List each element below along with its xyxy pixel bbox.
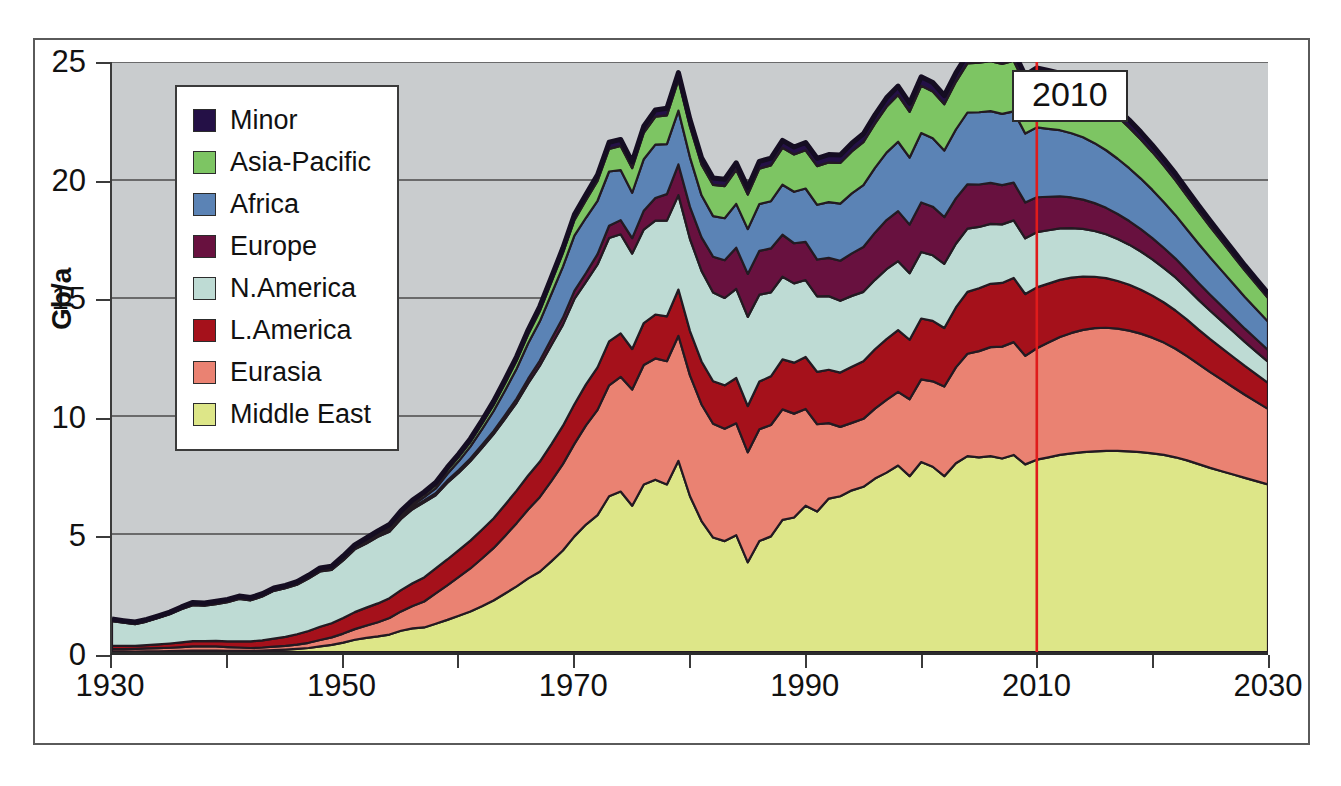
y-tick-mark — [96, 536, 110, 538]
x-tick-mark — [573, 655, 575, 668]
legend-item-l-america[interactable]: L.America — [193, 309, 371, 351]
x-tick-mark — [226, 655, 228, 668]
legend-item-eurasia[interactable]: Eurasia — [193, 351, 371, 393]
legend-item-n-america[interactable]: N.America — [193, 267, 371, 309]
legend-item-middle-east[interactable]: Middle East — [193, 393, 371, 435]
y-tick-label: 10 — [52, 400, 86, 436]
x-tick-mark — [1036, 655, 1038, 668]
legend-label: Minor — [230, 107, 298, 134]
x-tick-mark — [805, 655, 807, 668]
legend-swatch-icon — [193, 235, 216, 258]
legend-swatch-icon — [193, 151, 216, 174]
legend-label: Middle East — [230, 401, 371, 428]
legend-swatch-icon — [193, 277, 216, 300]
x-tick-mark — [689, 655, 691, 668]
y-axis: 25 20 15 10 5 0 — [0, 62, 100, 655]
x-tick-label: 1950 — [307, 668, 376, 704]
annotation-2010-label: 2010 — [1032, 75, 1108, 113]
y-tick-mark — [96, 655, 110, 657]
legend-swatch-icon — [193, 109, 216, 132]
x-tick-label: 1970 — [539, 668, 608, 704]
legend-swatch-icon — [193, 361, 216, 384]
x-tick-mark — [921, 655, 923, 668]
legend-swatch-icon — [193, 193, 216, 216]
legend-item-minor[interactable]: Minor — [193, 99, 371, 141]
x-tick-label: 2010 — [1002, 668, 1071, 704]
y-tick-label: 5 — [69, 518, 86, 554]
x-tick-mark — [457, 655, 459, 668]
annotation-2010-box: 2010 — [1012, 70, 1128, 122]
chart-legend: Minor Asia-Pacific Africa Europe N.Ameri… — [175, 85, 399, 451]
legend-label: L.America — [230, 317, 352, 344]
legend-item-africa[interactable]: Africa — [193, 183, 371, 225]
legend-item-europe[interactable]: Europe — [193, 225, 371, 267]
x-tick-label: 1990 — [770, 668, 839, 704]
x-tick-label: 2030 — [1234, 668, 1303, 704]
legend-label: Asia-Pacific — [230, 149, 371, 176]
legend-label: Europe — [230, 233, 317, 260]
x-tick-mark — [342, 655, 344, 668]
chart-page: 25 20 15 10 5 0 Gb/a 1930 1950 — [0, 0, 1341, 786]
legend-label: N.America — [230, 275, 356, 302]
x-axis-ticks — [110, 655, 1268, 669]
y-tick-label: 25 — [52, 44, 86, 80]
x-tick-mark — [1268, 655, 1270, 668]
legend-swatch-icon — [193, 403, 216, 426]
legend-swatch-icon — [193, 319, 216, 342]
y-axis-title: Gb/a — [46, 268, 78, 330]
legend-item-asia-pacific[interactable]: Asia-Pacific — [193, 141, 371, 183]
legend-label: Africa — [230, 191, 299, 218]
y-tick-label: 20 — [52, 163, 86, 199]
x-tick-mark — [110, 655, 112, 668]
x-tick-label: 1930 — [76, 668, 145, 704]
y-tick-mark — [96, 62, 110, 64]
x-axis: 1930 1950 1970 1990 2010 2030 — [110, 668, 1268, 728]
y-tick-mark — [96, 418, 110, 420]
x-tick-mark — [1152, 655, 1154, 668]
y-tick-mark — [96, 299, 110, 301]
y-tick-mark — [96, 181, 110, 183]
legend-label: Eurasia — [230, 359, 322, 386]
